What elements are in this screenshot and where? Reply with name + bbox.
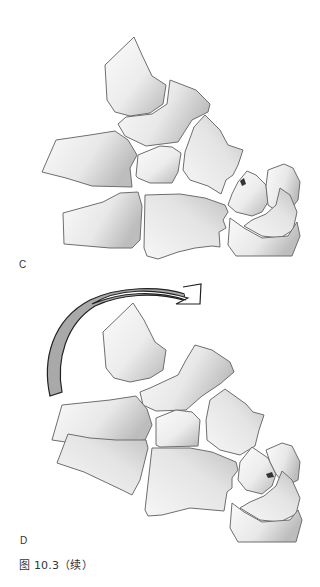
bone-left-wide <box>42 131 137 187</box>
panel-d-diagram: D <box>0 280 320 550</box>
bone-top <box>105 37 166 116</box>
bone-left-overlap-d <box>57 434 148 495</box>
carpal-bones-illustration-c <box>0 0 320 280</box>
panel-c-diagram: C <box>0 0 320 280</box>
figure-caption: 图 10.3（续） <box>19 556 93 572</box>
bone-center-small-d <box>156 410 200 447</box>
bone-right-notched-d <box>206 389 264 455</box>
bone-lower-left <box>63 192 142 248</box>
carpal-bones-illustration-d <box>0 280 320 550</box>
bone-lower-middle-d <box>145 448 238 516</box>
bone-right-notched <box>183 115 243 194</box>
bone-center-small <box>136 146 181 183</box>
bone-lower-middle <box>144 194 228 259</box>
bone-cluster-1 <box>228 171 268 216</box>
bone-top-d <box>103 303 166 382</box>
panel-label-c: C <box>19 259 26 270</box>
panel-label-d: D <box>20 535 27 546</box>
